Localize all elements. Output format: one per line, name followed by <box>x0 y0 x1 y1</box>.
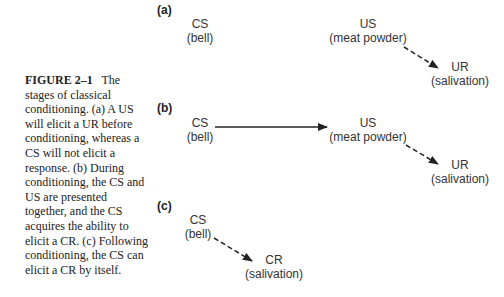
arrow-b-us-ur <box>406 145 438 164</box>
arrows-layer <box>0 0 504 297</box>
arrow-c-cs-cr <box>214 238 252 261</box>
arrow-a-us-ur <box>404 47 438 68</box>
